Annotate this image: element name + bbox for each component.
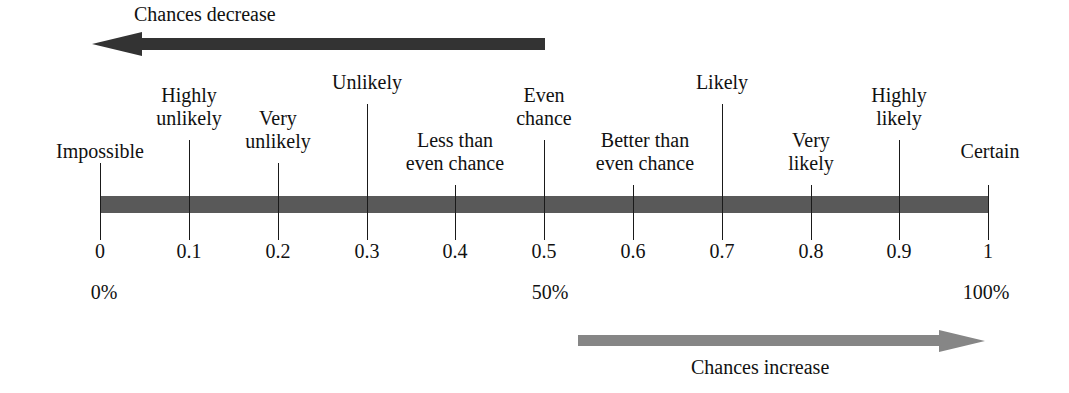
descriptor-less-than-even-chance: Less than even chance: [355, 129, 555, 175]
descriptor-very-unlikely: Very unlikely: [198, 107, 358, 153]
descriptor-very-likely: Very likely: [731, 129, 891, 175]
tick-label-0.7: 0.7: [710, 240, 735, 263]
tick-label-0.5: 0.5: [532, 240, 557, 263]
arrow-left-head-icon: [92, 32, 142, 56]
arrow-shaft: [578, 335, 940, 346]
leader-line-0.8: [811, 185, 812, 240]
leader-line-1: [988, 185, 989, 240]
tick-label-0.4: 0.4: [443, 240, 468, 263]
descriptor-likely: Likely: [642, 71, 802, 94]
tick-label-0.3: 0.3: [355, 240, 380, 263]
tick-label-0.1: 0.1: [177, 240, 202, 263]
tick-label-0.2: 0.2: [266, 240, 291, 263]
leader-line-0.9: [899, 140, 900, 240]
descriptor-impossible: Impossible: [20, 140, 180, 163]
leader-line-0.6: [633, 185, 634, 240]
descriptor-unlikely: Unlikely: [287, 71, 447, 94]
leader-line-0.1: [189, 140, 190, 240]
arrow-right-head-icon: [939, 330, 985, 352]
chances-increase-label: Chances increase: [691, 355, 829, 379]
descriptor-better-than-even-chance: Better than even chance: [535, 129, 755, 175]
percent-label-100: 100%: [963, 281, 1010, 304]
leader-line-0.2: [278, 163, 279, 240]
chances-increase-arrow: [578, 330, 985, 352]
descriptor-even-chance: Even chance: [464, 84, 624, 130]
percent-label-50: 50%: [532, 281, 569, 304]
tick-label-1: 1: [983, 240, 993, 263]
leader-line-0: [100, 163, 101, 240]
tick-label-0.6: 0.6: [621, 240, 646, 263]
tick-label-0.9: 0.9: [887, 240, 912, 263]
descriptor-certain: Certain: [910, 140, 1069, 163]
chances-decrease-label: Chances decrease: [134, 2, 276, 26]
tick-label-0.8: 0.8: [799, 240, 824, 263]
percent-label-0: 0%: [91, 281, 118, 304]
leader-line-0.4: [455, 185, 456, 240]
tick-label-0: 0: [95, 240, 105, 263]
chances-decrease-arrow: [92, 32, 545, 56]
probability-scale-diagram: Chances decrease Impossible Highly unlik…: [0, 0, 1069, 393]
arrow-shaft: [139, 38, 545, 50]
descriptor-highly-likely: Highly likely: [819, 84, 979, 130]
